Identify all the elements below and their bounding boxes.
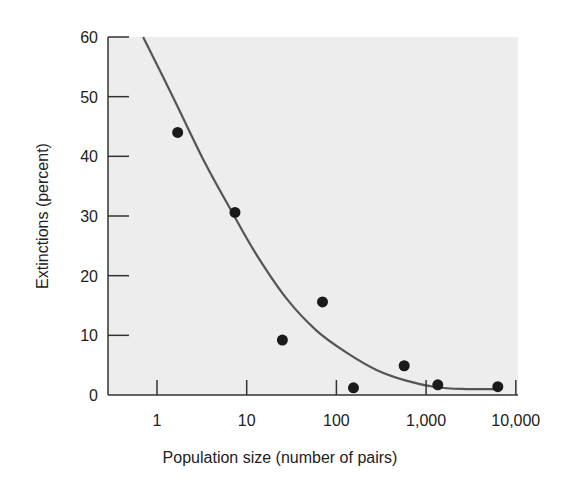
y-tick-label: 60 — [80, 29, 98, 46]
x-tick-label: 100 — [323, 412, 350, 429]
data-point — [229, 207, 240, 218]
x-tick-label: 10,000 — [491, 412, 540, 429]
data-point — [492, 381, 503, 392]
x-tick-label: 1,000 — [406, 412, 446, 429]
x-axis-label: Population size (number of pairs) — [163, 449, 398, 466]
data-point — [172, 127, 183, 138]
y-tick-label: 40 — [80, 148, 98, 165]
y-tick-label: 30 — [80, 208, 98, 225]
y-tick-label: 20 — [80, 268, 98, 285]
y-tick-label: 0 — [89, 387, 98, 404]
data-point — [399, 360, 410, 371]
chart: 0102030405060 1101001,00010,000 Populati… — [0, 0, 575, 489]
y-axis-label: Extinctions (percent) — [34, 143, 51, 289]
x-tick-label: 10 — [238, 412, 256, 429]
data-point — [277, 335, 288, 346]
data-point — [432, 379, 443, 390]
y-tick-label: 50 — [80, 89, 98, 106]
data-point — [317, 296, 328, 307]
x-tick-label: 1 — [153, 412, 162, 429]
data-point — [348, 382, 359, 393]
y-tick-label: 10 — [80, 327, 98, 344]
